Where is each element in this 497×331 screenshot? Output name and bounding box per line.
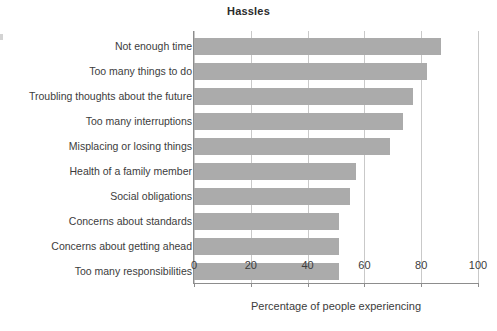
tick-mark-60	[364, 283, 365, 287]
page-edge-artifact	[0, 34, 3, 40]
tick-mark-80	[421, 283, 422, 287]
category-label: Concerns about getting ahead	[51, 238, 192, 255]
chart-title: Hassles	[0, 5, 497, 17]
bar	[194, 63, 427, 80]
bar	[194, 213, 339, 230]
bar	[194, 138, 390, 155]
category-label: Health of a family member	[69, 163, 192, 180]
x-axis-line	[193, 283, 479, 284]
bar	[194, 113, 403, 130]
bar	[194, 163, 356, 180]
x-tick-label-60: 60	[344, 259, 384, 271]
category-label: Misplacing or losing things	[69, 138, 192, 155]
category-label: Too many things to do	[89, 63, 192, 80]
tick-mark-100	[478, 283, 479, 287]
category-label: Concerns about standards	[69, 213, 192, 230]
x-tick-label-80: 80	[401, 259, 441, 271]
tick-mark-40	[308, 283, 309, 287]
tick-mark-0	[194, 283, 195, 287]
bar	[194, 238, 339, 255]
category-label: Too many responsibilities	[75, 263, 192, 280]
x-tick-label-20: 20	[231, 259, 271, 271]
gridline-100	[478, 31, 479, 283]
category-label: Social obligations	[110, 188, 192, 205]
bar	[194, 38, 441, 55]
category-label: Too many interruptions	[86, 113, 192, 130]
x-axis-title: Percentage of people experiencing	[194, 300, 478, 312]
category-label: Not enough time	[115, 38, 192, 55]
x-tick-label-100: 100	[458, 259, 497, 271]
x-tick-label-40: 40	[288, 259, 328, 271]
plot-area	[194, 31, 478, 283]
tick-mark-20	[251, 283, 252, 287]
hassles-bar-chart: Hassles 020406080100 Not enough timeToo …	[0, 0, 497, 331]
category-label: Troubling thoughts about the future	[29, 88, 192, 105]
bar	[194, 188, 350, 205]
bar	[194, 88, 413, 105]
